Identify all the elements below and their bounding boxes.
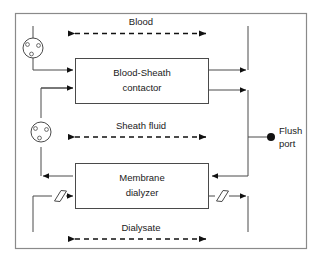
dialysate-outlet-restrictor-shape [217,191,229,202]
sheath-pump-roller-1 [34,127,38,131]
dialysate-inlet-restrictor-shape [55,191,67,202]
flush-port-label-line1: Flush [279,125,302,136]
blood-pump-roller-1 [26,43,30,47]
diagram-canvas: Blood Sheath fluid Dialysate [0,0,323,263]
membrane-dialyzer-block[interactable]: Membrane dialyzer [76,164,209,209]
dialysate-flow-label: Dialysate [121,222,160,233]
membrane-dialyzer-label-line2: dialyzer [126,187,159,198]
sheath-pump-roller-3 [38,136,42,140]
process-flow-diagram: Blood Sheath fluid Dialysate [0,0,323,263]
blood-sheath-contactor-label-line1: Blood-Sheath [113,67,171,78]
blood-sheath-contactor-label-line2: contactor [122,82,161,93]
blood-flow-label: Blood [129,16,153,27]
sheath-pump[interactable] [31,122,51,142]
membrane-dialyzer-label-line1: Membrane [119,172,164,183]
flush-port-label-line2: port [279,138,296,149]
sheath-pump-roller-2 [45,128,49,132]
dialysate-inlet-trunk [33,196,52,232]
blood-pump-roller-3 [30,52,34,56]
dialysate-outlet-restrictor[interactable] [217,191,229,202]
blood-pump-roller-2 [37,44,41,48]
sheath-fluid-flow-label: Sheath fluid [116,120,166,131]
flush-port-dot[interactable] [267,133,275,141]
dialysate-inlet-restrictor[interactable] [55,191,67,202]
sheath-return-line-upper [41,88,73,118]
blood-sheath-contactor-block[interactable]: Blood-Sheath contactor [76,59,209,104]
blood-pump[interactable] [23,38,43,58]
outer-frame [16,14,307,249]
